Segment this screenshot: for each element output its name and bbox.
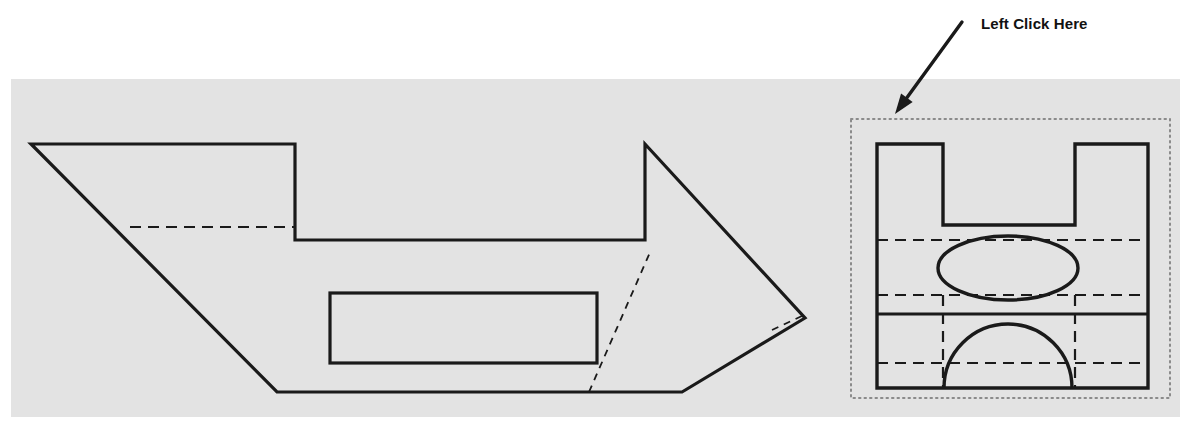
technical-drawing-svg xyxy=(0,0,1192,439)
screenshot-canvas: Left Click Here xyxy=(0,0,1192,439)
cad-drawing-panel xyxy=(11,79,1180,417)
callout-label: Left Click Here xyxy=(981,15,1088,32)
